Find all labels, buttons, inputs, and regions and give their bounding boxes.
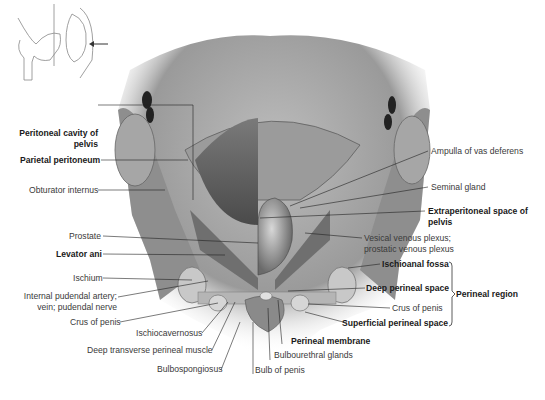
label-vesical-venous-plexus: Vesical venous plexus; prostatic venous … [364, 233, 454, 255]
label-peritoneal-cavity: Peritoneal cavity of pelvis [18, 128, 98, 150]
label-extraperitoneal-space: Extraperitoneal space of pelvis [428, 206, 528, 228]
label-perineal-region: Perineal region [456, 289, 518, 300]
label-crus-of-penis-left: Crus of penis [70, 317, 121, 328]
label-line: Vesical venous plexus; [364, 233, 454, 244]
label-line: Peritoneal cavity of [18, 128, 98, 139]
label-superficial-perineal-space: Superficial perineal space [342, 318, 448, 329]
label-obturator-internus: Obturator internus [29, 185, 98, 196]
label-line: pelvis [428, 217, 528, 228]
label-line: pelvis [18, 139, 98, 150]
label-ischiocavernosus: Ischiocavernosus [136, 328, 202, 339]
label-line: prostatic venous plexus [364, 244, 454, 255]
label-levator-ani: Levator ani [56, 249, 102, 260]
label-crus-of-penis-right: Crus of penis [392, 303, 443, 314]
arrow-left-icon [89, 41, 108, 47]
orientation-sketch-icon [18, 4, 93, 80]
perineal-region-bracket [449, 262, 455, 326]
label-parietal-peritoneum: Parietal peritoneum [20, 155, 100, 166]
label-bulbourethral-glands: Bulbourethral glands [274, 350, 353, 361]
label-ischioanal-fossa: Ischioanal fossa [382, 259, 449, 270]
label-line: Internal pudendal artery; [20, 291, 117, 302]
label-perineal-membrane: Perineal membrane [291, 336, 370, 347]
label-bulbospongiosus: Bulbospongiosus [157, 364, 222, 375]
label-internal-pudendal: Internal pudendal artery; vein; pudendal… [20, 291, 117, 313]
label-ischium: Ischium [73, 273, 103, 284]
anatomical-illustration [0, 0, 545, 400]
label-ampulla-of-vas-deferens: Ampulla of vas deferens [431, 146, 523, 157]
label-bulb-of-penis: Bulb of penis [255, 365, 305, 376]
label-prostate: Prostate [69, 231, 101, 242]
label-line: Extraperitoneal space of [428, 206, 528, 217]
label-line: vein; pudendal nerve [20, 302, 117, 313]
label-deep-perineal-space: Deep perineal space [366, 283, 449, 294]
label-seminal-gland: Seminal gland [431, 182, 485, 193]
label-deep-transverse-perineal-muscle: Deep transverse perineal muscle [87, 345, 213, 356]
